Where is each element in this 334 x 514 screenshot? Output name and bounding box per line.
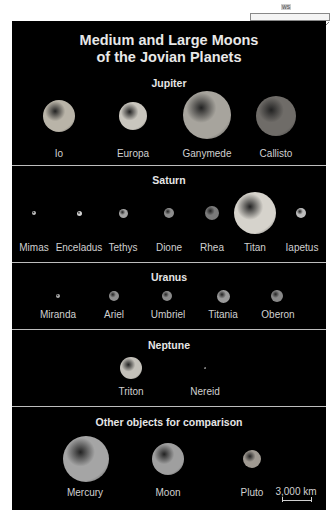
scale-tick-right — [311, 497, 312, 502]
moon-disc-nereid — [204, 367, 206, 369]
moon-label-europa: Europa — [98, 148, 168, 159]
moon-label-iapetus: Iapetus — [267, 242, 334, 253]
section-title-jupiter: Jupiter — [12, 77, 326, 89]
object-label-mercury: Mercury — [50, 487, 120, 498]
moon-label-triton: Triton — [96, 386, 166, 397]
moon-label-nereid: Nereid — [170, 386, 240, 397]
moon-label-oberon: Oberon — [243, 309, 313, 320]
section-title-other: Other objects for comparison — [12, 416, 326, 428]
moon-label-ganymede: Ganymede — [172, 148, 242, 159]
moon-disc-mimas — [32, 211, 36, 215]
moon-disc-callisto — [256, 96, 296, 136]
scale-tick-left — [282, 497, 283, 502]
moon-disc-tethys — [119, 209, 128, 218]
moon-label-io: Io — [24, 148, 94, 159]
section-title-neptune: Neptune — [12, 339, 326, 351]
moon-disc-ariel — [109, 291, 119, 301]
moon-disc-io — [43, 100, 75, 132]
moon-disc-moon — [152, 443, 184, 475]
figure-title-line1: Medium and Large Moons — [12, 32, 326, 49]
moon-disc-rhea — [205, 206, 219, 220]
divider — [12, 329, 326, 330]
figure-title-line2: of the Jovian Planets — [12, 49, 326, 66]
moon-disc-triton — [120, 357, 142, 379]
moon-disc-mercury — [63, 436, 109, 482]
moon-label-callisto: Callisto — [241, 148, 311, 159]
moon-disc-pluto — [243, 450, 261, 468]
moon-disc-europa — [119, 102, 147, 130]
divider — [12, 262, 326, 263]
moon-disc-miranda — [56, 294, 60, 298]
moon-disc-ganymede — [183, 91, 231, 139]
moon-disc-enceladus — [77, 211, 82, 216]
section-title-saturn: Saturn — [12, 174, 326, 186]
section-title-uranus: Uranus — [12, 271, 326, 283]
figure-panel — [12, 21, 326, 510]
ruler-strip — [250, 13, 330, 21]
moon-disc-titan — [234, 192, 276, 234]
divider — [12, 165, 326, 166]
scale-label: 3,000 km — [261, 486, 331, 497]
scale-bar — [282, 500, 312, 501]
object-label-moon: Moon — [133, 487, 203, 498]
moon-disc-iapetus — [296, 208, 306, 218]
divider — [12, 406, 326, 407]
ws-label: WS — [281, 4, 291, 10]
moon-disc-dione — [164, 208, 174, 218]
moon-disc-oberon — [271, 290, 283, 302]
moon-disc-umbriel — [162, 291, 172, 301]
moon-disc-titania — [217, 290, 230, 303]
